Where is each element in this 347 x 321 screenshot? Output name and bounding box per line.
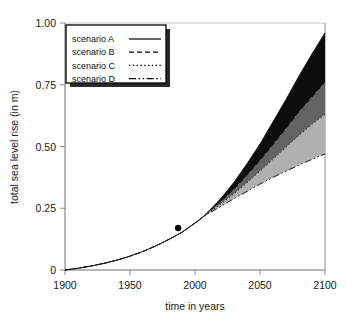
- observation-point: [175, 225, 181, 231]
- legend-label-3: scenario C: [72, 61, 116, 71]
- y-axis-label: total sea level rise (in m): [8, 90, 20, 204]
- x-axis-label: time in years: [165, 300, 225, 312]
- y-tick-label: 0.25: [36, 202, 57, 214]
- observation-markers: [175, 225, 181, 231]
- y-tick-label: 1.00: [36, 17, 57, 29]
- y-tick-label: 0.50: [36, 141, 57, 153]
- legend-label-1: scenario A: [72, 34, 114, 44]
- sea-level-rise-chart: 00.250.500.751.00 19001950200020502100 t…: [0, 0, 347, 321]
- legend-label-4: scenario D: [72, 74, 116, 84]
- x-tick-label: 2000: [183, 279, 207, 291]
- x-tick-label: 1900: [53, 279, 77, 291]
- y-tick-label: 0: [50, 264, 56, 276]
- x-tick-label: 2100: [313, 279, 337, 291]
- x-tick-label: 1950: [118, 279, 142, 291]
- chart-legend[interactable]: scenario Ascenario Bscenario Cscenario D: [66, 25, 170, 87]
- y-tick-label: 0.75: [36, 79, 57, 91]
- chart-container: 00.250.500.751.00 19001950200020502100 t…: [0, 0, 347, 321]
- legend-label-2: scenario B: [72, 47, 115, 57]
- x-tick-label: 2050: [248, 279, 272, 291]
